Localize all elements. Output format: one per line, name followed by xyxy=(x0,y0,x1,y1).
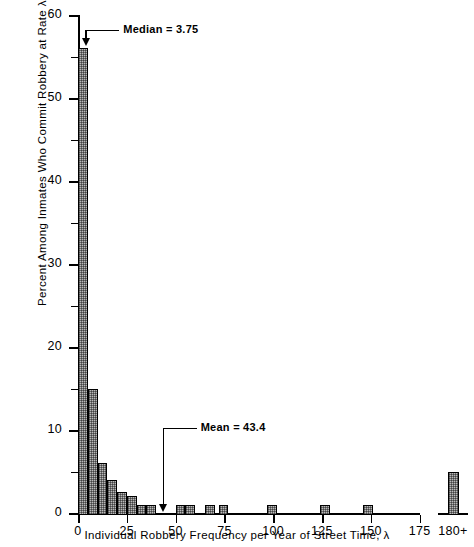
mean-arrowhead xyxy=(159,504,167,512)
histogram-bar xyxy=(205,505,215,515)
mean-annotation: Mean = 43.4 xyxy=(0,0,474,547)
y-tick-label: 40 xyxy=(32,173,62,187)
histogram-bar xyxy=(185,505,195,515)
y-tick-major xyxy=(69,15,78,17)
histogram-bar xyxy=(363,505,373,515)
histogram-bar xyxy=(127,496,137,514)
x-tick-label: 100 xyxy=(248,524,298,538)
x-tick xyxy=(224,515,226,523)
x-tick-label: 125 xyxy=(297,524,347,538)
histogram-bar xyxy=(219,505,229,515)
x-tick-label-overflow: 180+ xyxy=(423,524,474,538)
y-tick-major xyxy=(69,347,78,349)
x-tick xyxy=(127,515,129,523)
mean-leader-line xyxy=(163,428,197,429)
x-tick xyxy=(420,515,422,523)
histogram-bar xyxy=(176,505,186,515)
y-tick-label: 20 xyxy=(32,339,62,353)
y-tick-label: 10 xyxy=(32,422,62,436)
x-tick-label: 25 xyxy=(102,524,152,538)
histogram-bar xyxy=(78,48,88,514)
histogram-bar xyxy=(137,505,147,515)
y-tick-label: 60 xyxy=(32,7,62,21)
x-tick xyxy=(322,515,324,523)
y-tick-minor xyxy=(71,223,78,225)
x-tick-label: 50 xyxy=(151,524,201,538)
x-tick xyxy=(176,515,178,523)
x-tick-label: 150 xyxy=(346,524,396,538)
histogram-bar xyxy=(88,389,98,515)
y-tick-minor xyxy=(71,306,78,308)
y-tick-major xyxy=(69,430,78,432)
y-tick-minor xyxy=(71,472,78,474)
y-tick-label: 30 xyxy=(32,256,62,270)
histogram-bar xyxy=(320,505,330,515)
y-tick-major xyxy=(69,181,78,183)
x-tick-label: 0 xyxy=(53,524,103,538)
x-tick xyxy=(78,515,80,523)
y-tick-minor xyxy=(71,57,78,59)
x-tick-label: 75 xyxy=(199,524,249,538)
histogram-bar xyxy=(146,505,156,515)
x-tick xyxy=(273,515,275,523)
y-tick-minor xyxy=(71,389,78,391)
x-tick xyxy=(371,515,373,523)
histogram-bar xyxy=(117,492,127,514)
histogram-bar xyxy=(107,480,117,515)
y-tick-label: 0 xyxy=(32,505,62,519)
mean-arrow-shaft xyxy=(163,428,164,505)
y-tick-label: 50 xyxy=(32,90,62,104)
histogram-bar xyxy=(98,463,108,514)
histogram-bar xyxy=(267,505,277,515)
histogram-chart: Percent Among Inmates Who Commit Robbery… xyxy=(0,0,474,547)
y-tick-major xyxy=(69,264,78,266)
y-tick-major xyxy=(69,513,78,515)
histogram-bar-overflow xyxy=(448,472,459,515)
y-tick-minor xyxy=(71,140,78,142)
y-tick-major xyxy=(69,98,78,100)
mean-annotation-label: Mean = 43.4 xyxy=(201,421,266,433)
